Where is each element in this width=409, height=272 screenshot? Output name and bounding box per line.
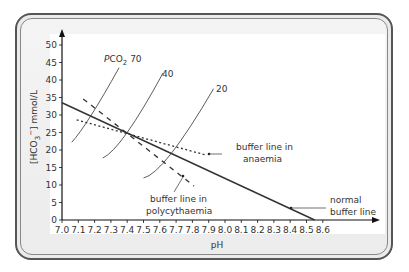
y-tick-label: 45 xyxy=(46,58,57,68)
y-tick-label: 15 xyxy=(46,163,57,173)
anaemia-label-line2: anaemia xyxy=(243,154,282,164)
y-axis-arrow xyxy=(59,29,65,37)
x-tick-label: 7.7 xyxy=(169,225,183,235)
y-tick-label: 50 xyxy=(46,40,58,50)
x-tick-label: 7.0 xyxy=(55,225,70,235)
chart: 7.07.17.27.37.47.57.67.77.87.98.08.18.28… xyxy=(0,0,409,272)
normal-label-line2: buffer line xyxy=(330,207,376,217)
x-tick-label: 8.3 xyxy=(267,225,281,235)
polycythaemia-label-line2: polycythaemia xyxy=(146,206,212,216)
y-tick-label: 40 xyxy=(46,75,58,85)
y-tick-label: 35 xyxy=(46,93,57,103)
x-tick-label: 8.1 xyxy=(234,225,248,235)
x-tick-label: 7.2 xyxy=(87,225,101,235)
x-tick-label: 7.4 xyxy=(120,225,135,235)
x-tick-label: 7.8 xyxy=(185,225,200,235)
y-tick-label: 20 xyxy=(46,145,58,155)
y-tick-label: 5 xyxy=(51,198,57,208)
x-tick-label: 8.5 xyxy=(299,225,313,235)
x-tick-label: 8.0 xyxy=(218,225,233,235)
x-tick-label: 7.6 xyxy=(153,225,168,235)
x-tick-label: 8.4 xyxy=(283,225,298,235)
y-axis-label: [HCO3−] mmol/L xyxy=(27,90,42,164)
x-tick-label: 7.5 xyxy=(136,225,150,235)
x-tick-label: 8.6 xyxy=(316,225,331,235)
normal-pointer-dot xyxy=(290,207,293,210)
x-tick-label: 7.1 xyxy=(71,225,85,235)
y-tick-label: 30 xyxy=(46,110,58,120)
pco2-20-label: 20 xyxy=(216,84,228,94)
x-tick-label: 8.2 xyxy=(250,225,264,235)
anaemia-pointer-dot xyxy=(208,153,211,156)
normal-label-line1: normal xyxy=(330,195,362,205)
polycythaemia-label-line1: buffer line in xyxy=(150,194,207,204)
y-tick-label: 10 xyxy=(46,180,58,190)
y-tick-label: 0 xyxy=(51,215,57,225)
x-tick-label: 7.3 xyxy=(104,225,118,235)
x-axis-label: pH xyxy=(211,240,223,250)
anaemia-label-line1: buffer line in xyxy=(236,142,293,152)
pco2-40-label: 40 xyxy=(162,69,174,79)
x-tick-label: 7.9 xyxy=(202,225,217,235)
polycythaemia-pointer-dot xyxy=(182,175,185,178)
y-tick-label: 25 xyxy=(46,128,57,138)
